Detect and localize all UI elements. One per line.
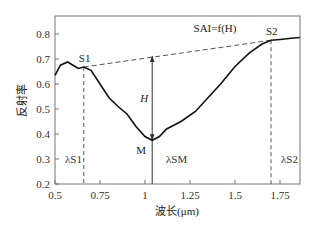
x-tick-label: 1.25	[180, 189, 200, 201]
x-ticks: 0.50.7511.251.51.75	[48, 180, 290, 201]
lambda-sm-label: λSM	[166, 153, 187, 165]
reflectance-curve	[55, 38, 300, 141]
formula-label: SAI=f(H)	[194, 22, 237, 35]
y-tick-label: 0.4	[36, 128, 50, 140]
h-label: H	[139, 92, 149, 104]
y-tick-label: 0.5	[36, 103, 50, 115]
lambda-s1-label: λS1	[65, 153, 82, 165]
x-tick-label: 1.5	[228, 189, 242, 201]
x-tick-label: 0.5	[48, 189, 62, 201]
y-tick-label: 0.6	[36, 78, 50, 90]
y-ticks: 0.20.30.40.50.60.70.8	[36, 28, 59, 190]
y-tick-label: 0.7	[36, 53, 50, 65]
s1-label: S1	[79, 52, 91, 64]
x-tick-label: 0.75	[90, 189, 110, 201]
x-tick-label: 1.75	[270, 189, 290, 201]
x-tick-label: 1	[142, 189, 148, 201]
y-axis-label: 反射率	[15, 84, 28, 117]
s2-label: S2	[266, 25, 278, 37]
lambda-s2-label: λS2	[281, 153, 298, 165]
y-tick-label: 0.2	[36, 178, 50, 190]
y-tick-label: 0.8	[36, 28, 50, 40]
reflectance-chart: 0.50.7511.251.51.75 0.20.30.40.50.60.70.…	[0, 0, 318, 228]
m-label: M	[136, 144, 146, 156]
y-tick-label: 0.3	[36, 153, 50, 165]
x-axis-label: 波长(μm)	[155, 205, 199, 218]
